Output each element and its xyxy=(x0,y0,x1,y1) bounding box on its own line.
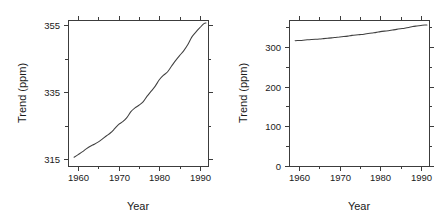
plot-frame xyxy=(290,21,430,167)
chart-svg-right: 19601970198019900100200300YearTrend (ppm… xyxy=(221,0,442,215)
x-tick-label: 1970 xyxy=(109,172,130,183)
y-tick-label: 315 xyxy=(44,154,60,165)
x-tick-label: 1990 xyxy=(411,172,432,183)
y-axis-title: Trend (ppm) xyxy=(16,63,28,123)
chart-panel-right: 19601970198019900100200300YearTrend (ppm… xyxy=(221,0,442,215)
data-series-line xyxy=(295,25,427,41)
y-tick-label: 355 xyxy=(44,20,60,31)
chart-panel-left: 1960197019801990315335355YearTrend (ppm) xyxy=(0,0,221,215)
y-axis-title: Trend (ppm) xyxy=(237,63,249,123)
x-tick-label: 1970 xyxy=(330,172,351,183)
figure-canvas: 1960197019801990315335355YearTrend (ppm)… xyxy=(0,0,443,215)
chart-svg-left: 1960197019801990315335355YearTrend (ppm) xyxy=(0,0,221,215)
x-tick-label: 1980 xyxy=(149,172,170,183)
y-tick-label: 100 xyxy=(265,121,281,132)
plot-frame xyxy=(69,21,209,167)
x-axis-title: Year xyxy=(348,200,371,212)
y-tick-label: 200 xyxy=(265,82,281,93)
data-series-line xyxy=(74,23,206,157)
x-tick-label: 1980 xyxy=(370,172,391,183)
x-tick-label: 1960 xyxy=(68,172,89,183)
x-tick-label: 1960 xyxy=(289,172,310,183)
y-tick-label: 300 xyxy=(265,42,281,53)
y-tick-label: 0 xyxy=(276,161,281,172)
y-tick-label: 335 xyxy=(44,87,60,98)
x-axis-title: Year xyxy=(127,200,150,212)
x-tick-label: 1990 xyxy=(190,172,211,183)
